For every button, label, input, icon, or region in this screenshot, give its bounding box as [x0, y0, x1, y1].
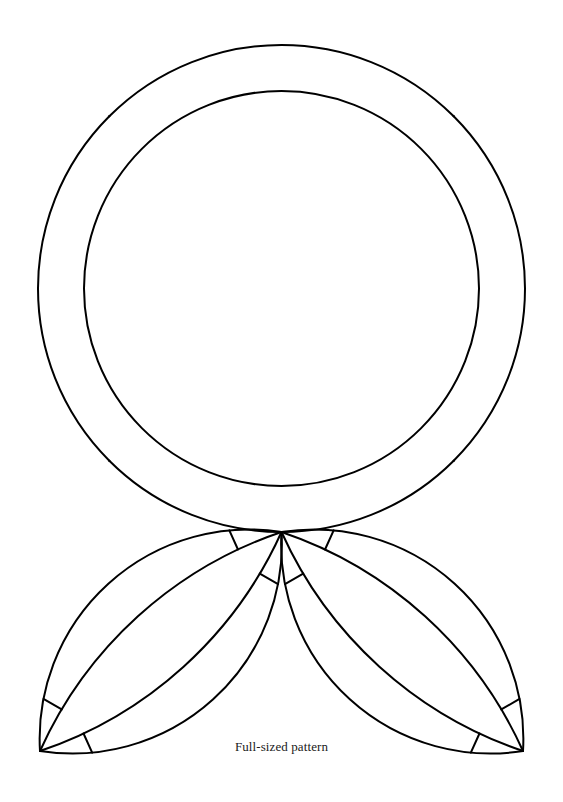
lobe-outer-upper-bottom-right [281, 532, 523, 754]
outer-ring-circle [38, 45, 525, 532]
lobe-outer-lower-bottom-right [282, 529, 524, 751]
lobe-head-seam-upper-bottom-left [229, 530, 238, 549]
lobe-outer-lower-bottom-left [40, 529, 282, 751]
lobe-head-seam-lower-bottom-right [285, 574, 303, 584]
pendant-lobe-bottom-right [281, 529, 523, 753]
melon-bands [109, 116, 453, 460]
pattern-page: Full-sized pattern [0, 0, 563, 802]
lobe-head-seam-lower-bottom-left [260, 574, 278, 584]
lobe-inner-upper-bottom-right [282, 532, 524, 751]
lobe-inner-lower-bottom-right [282, 532, 524, 751]
lobe-head-seam-upper-bottom-right [325, 530, 334, 549]
ring-circles [38, 45, 525, 532]
pendant-lobe-bottom-left [40, 529, 282, 753]
lobe-outer-upper-bottom-left [40, 532, 282, 754]
lobe-tip-seam-upper-bottom-right [501, 699, 519, 709]
pendant-lobes [40, 529, 524, 753]
lobe-inner-upper-bottom-left [40, 532, 282, 751]
lobe-inner-lower-bottom-left [40, 532, 282, 751]
quilt-pattern-drawing [0, 0, 563, 802]
page-caption: Full-sized pattern [0, 739, 563, 755]
inner-ring-circle [84, 91, 479, 486]
lobe-tip-seam-upper-bottom-left [43, 699, 61, 709]
